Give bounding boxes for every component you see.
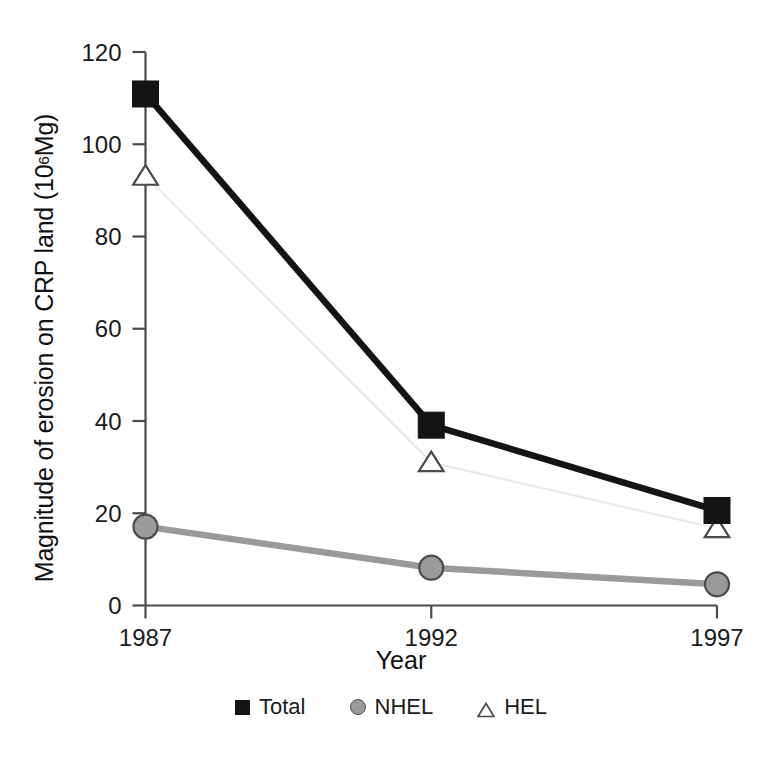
y-tick-label: 40: [95, 408, 122, 435]
legend-label-total: Total: [259, 694, 305, 720]
data-point-nhel-1997: [705, 572, 729, 596]
y-tick-label: 80: [95, 223, 122, 250]
y-tick-label: 60: [95, 315, 122, 342]
legend-item-hel: HEL: [477, 694, 547, 720]
data-point-hel-1987: [133, 165, 158, 185]
data-point-total-1987: [133, 81, 159, 107]
data-point-nhel-1992: [419, 556, 443, 580]
series-line-hel: [146, 176, 718, 528]
y-tick-label: 120: [81, 39, 121, 66]
legend-square-icon: [235, 700, 250, 715]
axis-lines: [146, 52, 718, 606]
x-axis-title-label: Year: [376, 646, 427, 675]
legend-item-total: Total: [235, 694, 305, 720]
y-tick-label: 0: [108, 592, 121, 619]
chart-legend: Total NHEL HEL: [0, 694, 782, 720]
legend-item-nhel: NHEL: [350, 694, 434, 720]
series-lines: [146, 94, 718, 584]
legend-label-hel: HEL: [504, 694, 547, 720]
legend-triangle-icon: [477, 698, 495, 716]
series-markers: [133, 81, 731, 596]
y-axis-tick-labels: 020406080100120: [81, 39, 121, 620]
x-axis-ticks: [146, 606, 718, 619]
y-tick-label: 20: [95, 500, 122, 527]
legend-label-nhel: NHEL: [375, 694, 434, 720]
legend-circle-icon: [350, 699, 366, 715]
data-point-nhel-1987: [134, 515, 158, 539]
data-point-total-1997: [704, 497, 730, 523]
data-point-total-1992: [418, 412, 444, 438]
x-axis-title: Year: [0, 646, 782, 675]
chart-figure: Magnitude of erosion on CRP land (106 Mg…: [0, 0, 782, 765]
y-tick-label: 100: [81, 131, 121, 158]
series-line-total: [146, 94, 718, 511]
